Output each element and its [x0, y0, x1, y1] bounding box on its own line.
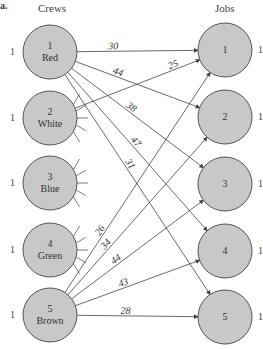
edge-crew1-job5: [65, 75, 210, 295]
edge-cost-label: 28: [120, 305, 130, 316]
crew-name: Blue: [25, 183, 75, 195]
stub-line: [73, 264, 79, 274]
edge-cost-label: 43: [117, 275, 130, 289]
job-number: 5: [205, 311, 245, 323]
job-number: 1: [205, 44, 245, 56]
crew-name: Brown: [25, 315, 75, 327]
job-number: 2: [205, 111, 245, 123]
crew-name: Green: [25, 250, 75, 262]
stub-line: [73, 132, 79, 142]
job-demand: 1: [258, 311, 263, 322]
crew-node-label: 5Brown: [25, 303, 75, 327]
stub-line: [73, 159, 79, 169]
crew-number: 3: [25, 171, 75, 183]
crew-supply: 1: [10, 46, 15, 57]
crew-node-label: 1Red: [25, 40, 75, 64]
stub-line: [76, 170, 86, 176]
edge-cost-label: 26: [92, 223, 107, 237]
edge-cost-label: 47: [129, 134, 145, 150]
edge-cost-label: 25: [166, 57, 179, 71]
edge-labels-layer: 3044384731252634444328: [92, 40, 179, 316]
edge-crew5-job2: [68, 137, 207, 295]
crew-supply: 1: [10, 309, 15, 320]
job-demand: 1: [258, 178, 263, 189]
stub-line: [76, 125, 86, 131]
stub-line: [73, 94, 79, 104]
edge-cost-label: 44: [112, 65, 125, 79]
job-demand: 1: [258, 245, 263, 256]
crew-name: White: [25, 118, 75, 130]
crew-number: 2: [25, 106, 75, 118]
edge-cost-label: 44: [108, 252, 123, 267]
job-demand: 1: [258, 44, 263, 55]
stub-line: [76, 237, 86, 243]
edge-crew5-job3: [72, 200, 204, 299]
crew-node-label: 2White: [25, 106, 75, 130]
crew-number: 5: [25, 303, 75, 315]
crew-name: Red: [25, 52, 75, 64]
edges-layer: [65, 50, 210, 316]
edge-crew1-job4: [68, 72, 207, 230]
stub-line: [76, 190, 86, 196]
edge-crew1-job3: [72, 68, 204, 167]
crew-supply: 1: [10, 244, 15, 255]
job-number: 3: [205, 178, 245, 190]
job-demand: 1: [258, 111, 263, 122]
edge-crew5-job5: [77, 315, 198, 316]
stub-line: [73, 226, 79, 236]
crew-supply: 1: [10, 177, 15, 188]
crew-node-label: 4Green: [25, 238, 75, 262]
edge-cost-label: 31: [123, 156, 138, 171]
crew-number: 1: [25, 40, 75, 52]
crew-number: 4: [25, 238, 75, 250]
job-number: 4: [205, 245, 245, 257]
edge-cost-label: 30: [107, 40, 118, 51]
edge-cost-label: 34: [97, 236, 113, 252]
stub-line: [76, 257, 86, 263]
stub-line: [73, 197, 79, 207]
edge-cost-label: 38: [123, 99, 138, 114]
edge-crew1-job1: [77, 50, 198, 51]
crew-supply: 1: [10, 112, 15, 123]
crew-node-label: 3Blue: [25, 171, 75, 195]
edge-crew5-job4: [75, 260, 199, 305]
